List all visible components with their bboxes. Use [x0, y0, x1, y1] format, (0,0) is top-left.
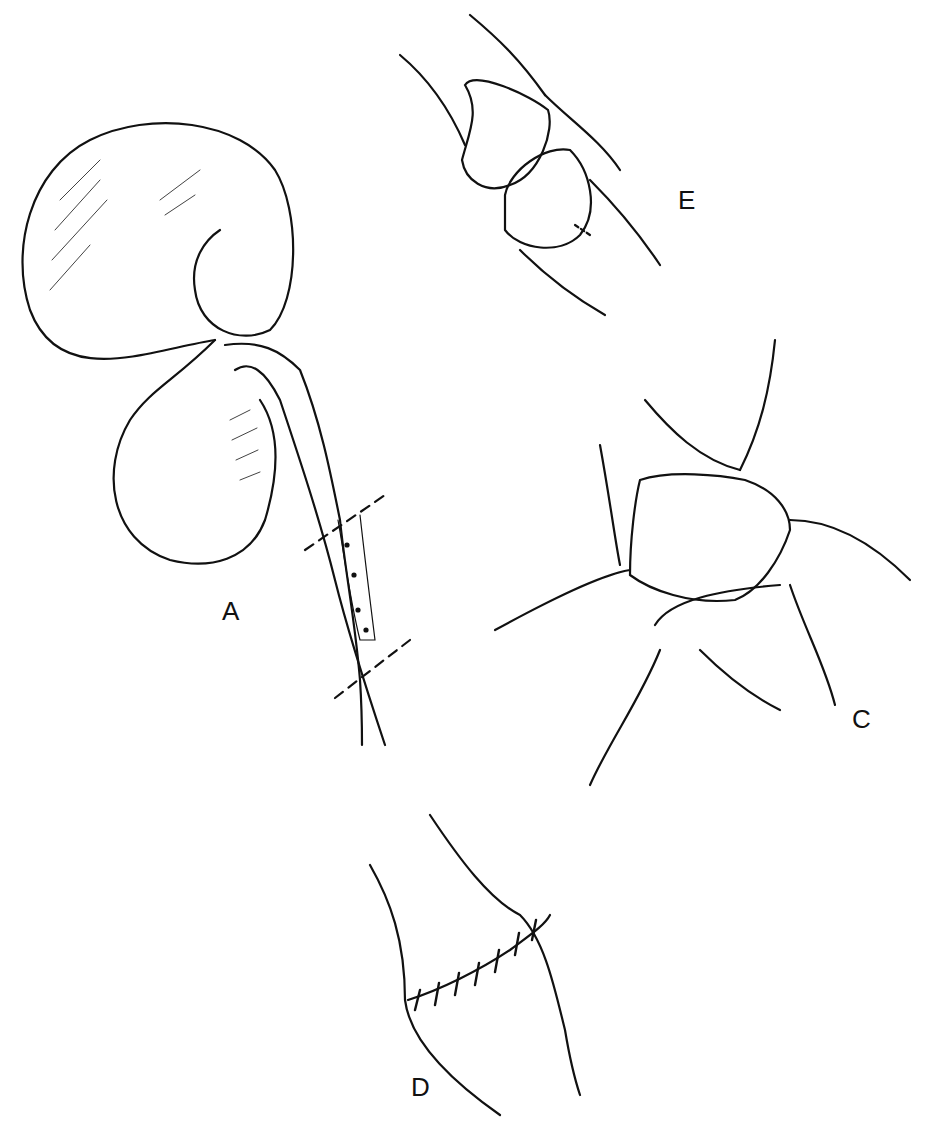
panel-label-c: C	[852, 706, 871, 732]
panel-d-anastomosis	[370, 815, 580, 1115]
panel-label-d: D	[411, 1074, 430, 1100]
panel-label-e: E	[678, 187, 695, 213]
panel-c-approximation	[495, 340, 910, 785]
panel-label-a: A	[222, 598, 239, 624]
illustration-canvas	[0, 0, 931, 1141]
panel-a-kidney	[23, 123, 411, 745]
panel-e-ureter-ends	[400, 15, 660, 315]
